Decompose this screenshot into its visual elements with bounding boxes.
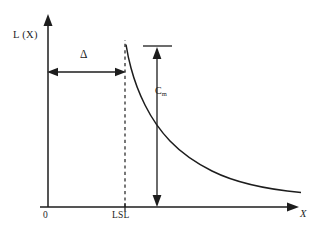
- y-axis: [44, 14, 53, 207]
- x-axis-tick-label-origin: 0: [43, 211, 48, 221]
- loss-curve: [126, 45, 301, 193]
- x-axis-arrowhead-icon: [287, 203, 299, 212]
- cost-annotation-label: Cm: [155, 86, 167, 98]
- cost-dimension-arrow: [143, 46, 172, 207]
- y-axis-label: L (X): [13, 30, 38, 41]
- delta-annotation-label: Δ: [80, 49, 87, 61]
- delta-dimension-arrow: [47, 68, 126, 76]
- x-axis-label: X: [300, 209, 306, 220]
- figure-canvas: [0, 0, 315, 236]
- cost-annotation-subscript: m: [162, 90, 167, 97]
- cost-annotation-base: C: [155, 85, 162, 96]
- y-axis-arrowhead-icon: [44, 14, 53, 26]
- cost-arrowhead-up-icon: [153, 47, 162, 59]
- x-axis: [40, 203, 299, 212]
- x-axis-tick-label-lsl: LSL: [112, 211, 130, 221]
- cost-arrowhead-down-icon: [153, 195, 162, 207]
- delta-arrowhead-right-icon: [115, 68, 126, 76]
- quality-loss-function-figure: L (X) X 0 LSL Δ Cm: [0, 0, 315, 236]
